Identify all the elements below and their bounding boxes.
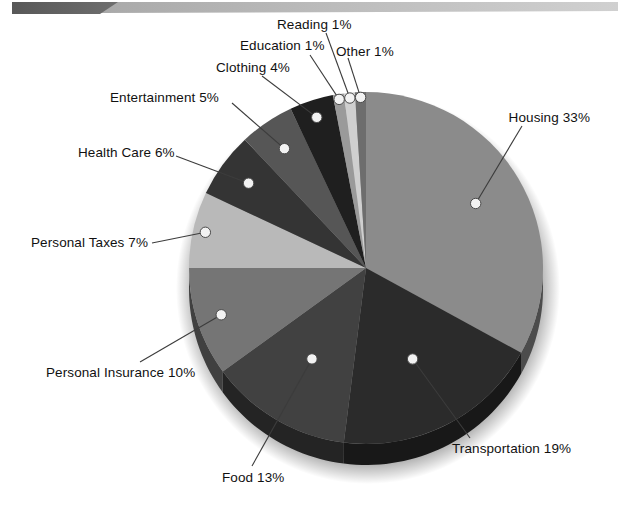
marker-housing[interactable]: Housing 33% — [470, 198, 480, 208]
marker-transportation[interactable]: Transportation 19% — [407, 354, 417, 364]
marker-food[interactable]: Food 13% — [307, 354, 317, 364]
marker-entertainment[interactable]: Entertainment 5% — [279, 143, 289, 153]
marker-clothing[interactable]: Clothing 4% — [312, 112, 322, 122]
marker-reading[interactable]: Reading 1% — [345, 93, 355, 103]
slice-label-education: Education 1% — [240, 38, 325, 54]
pie-slices: Housing 33%Transportation 19%Food 13%Per… — [189, 92, 543, 444]
slice-label-entertainment: Entertainment 5% — [110, 90, 219, 106]
marker-personal-taxes[interactable]: Personal Taxes 7% — [200, 227, 210, 237]
slice-label-health-care: Health Care 6% — [78, 145, 175, 161]
slice-label-clothing: Clothing 4% — [216, 60, 290, 76]
leader-line-education — [310, 55, 339, 99]
marker-education[interactable]: Education 1% — [334, 94, 344, 104]
slice-label-personal-taxes: Personal Taxes 7% — [31, 235, 148, 251]
marker-health-care[interactable]: Health Care 6% — [243, 178, 253, 188]
marker-other[interactable]: Other 1% — [355, 92, 365, 102]
slice-label-other: Other 1% — [336, 44, 394, 60]
slice-label-transportation: Transportation 19% — [452, 441, 571, 457]
slice-label-housing: Housing 33% — [509, 110, 590, 126]
leader-line-reading — [326, 33, 350, 98]
slice-label-personal-insurance: Personal Insurance 10% — [46, 365, 195, 381]
slice-label-food: Food 13% — [222, 470, 284, 486]
pie-chart: Housing 33%Transportation 19%Food 13%Per… — [0, 0, 618, 518]
slice-label-reading: Reading 1% — [277, 17, 352, 33]
marker-personal-insurance[interactable]: Personal Insurance 10% — [216, 310, 226, 320]
leader-line-other — [348, 58, 361, 97]
chart-page: Housing 33%Transportation 19%Food 13%Per… — [0, 0, 618, 518]
